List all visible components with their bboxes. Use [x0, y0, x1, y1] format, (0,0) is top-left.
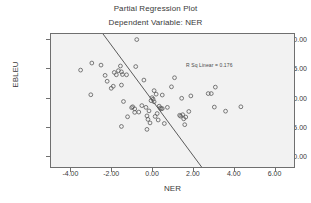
data-point	[155, 112, 159, 116]
x-tick-mark	[234, 168, 235, 172]
data-point	[119, 64, 123, 68]
data-point	[137, 110, 141, 114]
data-point	[189, 94, 193, 98]
data-point	[224, 109, 228, 113]
data-point	[154, 92, 158, 96]
data-point	[187, 110, 191, 114]
x-tick-mark	[152, 168, 153, 172]
data-point	[105, 79, 109, 83]
data-point	[183, 123, 187, 127]
data-point	[142, 78, 146, 82]
chart-title: Partial Regression Plot	[0, 4, 311, 13]
data-point	[213, 85, 217, 89]
data-point	[148, 121, 152, 125]
data-point	[126, 115, 130, 119]
x-tick-mark	[70, 168, 71, 172]
data-point	[99, 63, 103, 67]
data-point	[239, 105, 243, 109]
data-point	[125, 73, 129, 77]
data-point	[162, 122, 166, 126]
x-axis-label: NER	[50, 184, 295, 193]
data-point	[89, 93, 93, 97]
data-point	[212, 105, 216, 109]
x-tick-mark	[193, 168, 194, 172]
y-axis-label: EBLEU	[11, 30, 20, 120]
r-squared-annotation: R Sq Linear = 0.176	[186, 62, 233, 68]
x-tick-mark	[111, 168, 112, 172]
data-point	[135, 38, 139, 42]
data-point	[120, 83, 124, 87]
data-point	[145, 127, 149, 131]
data-point	[156, 118, 160, 122]
data-point	[146, 118, 150, 122]
data-point	[152, 89, 156, 93]
data-point	[122, 100, 126, 104]
data-point	[120, 125, 124, 129]
data-point	[170, 85, 174, 89]
plot-area	[50, 33, 295, 168]
scatter-points-layer	[51, 34, 295, 168]
data-point	[165, 105, 169, 109]
data-point	[160, 93, 164, 97]
data-point	[173, 76, 177, 80]
data-point	[90, 61, 94, 65]
data-point	[79, 68, 83, 72]
chart-subtitle: Dependent Variable: NER	[0, 18, 311, 27]
partial-regression-plot: Partial Regression Plot Dependent Variab…	[0, 0, 311, 203]
x-tick-mark	[275, 168, 276, 172]
data-point	[134, 65, 138, 69]
data-point	[180, 96, 184, 100]
data-point	[103, 73, 107, 77]
data-point	[140, 104, 144, 108]
data-point	[147, 109, 151, 113]
data-point	[144, 105, 148, 109]
